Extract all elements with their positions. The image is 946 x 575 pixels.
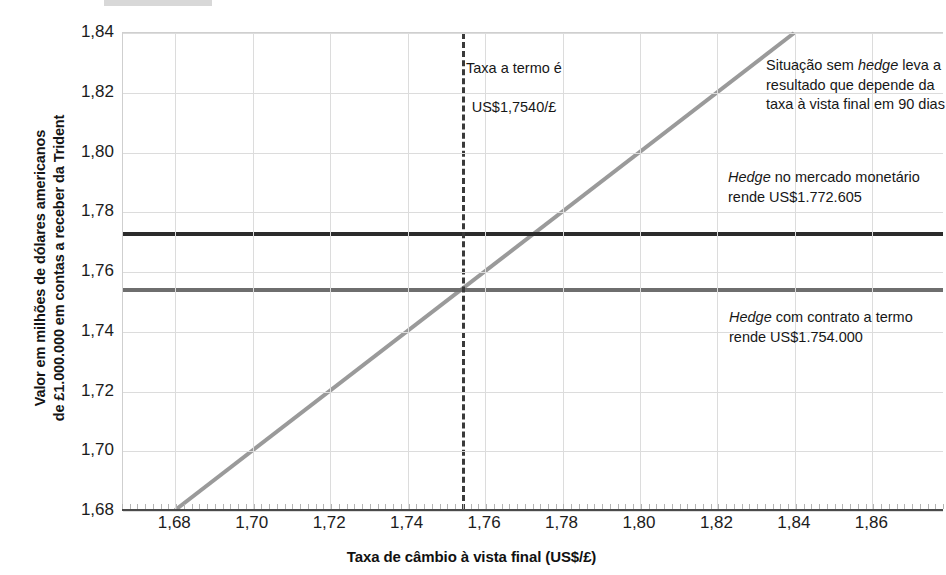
x-axis-minor-tick — [246, 504, 247, 509]
x-axis-minor-tick — [362, 504, 363, 509]
x-axis-minor-tick — [385, 504, 386, 509]
x-axis-minor-tick — [889, 504, 890, 509]
x-axis-minor-tick — [827, 504, 828, 509]
x-axis-minor-tick — [509, 504, 510, 509]
x-axis-minor-tick — [649, 504, 650, 509]
x-axis-minor-tick — [726, 504, 727, 509]
x-axis-minor-tick — [873, 504, 874, 509]
gridline-horizontal — [123, 392, 943, 393]
x-axis-minor-tick — [300, 504, 301, 509]
x-axis-minor-tick — [378, 504, 379, 509]
x-axis-minor-tick — [176, 504, 177, 509]
x-axis-minor-tick — [339, 504, 340, 509]
x-axis-minor-tick — [517, 504, 518, 509]
x-axis-minor-tick — [943, 504, 944, 509]
annotation-forward-rate: Taxa a termo é US$1,7540/£ — [419, 39, 609, 137]
x-axis-minor-tick — [401, 504, 402, 509]
x-axis-minor-tick — [424, 504, 425, 509]
x-axis-tick-label: 1,80 — [622, 513, 655, 533]
x-axis-minor-tick — [409, 504, 410, 509]
x-axis-minor-tick — [347, 504, 348, 509]
x-axis-minor-tick — [455, 504, 456, 509]
x-axis-minor-tick — [292, 504, 293, 509]
annotation-money-market-emphasis: Hedge — [728, 169, 771, 185]
x-axis-minor-tick — [393, 504, 394, 509]
x-axis-minor-tick — [269, 504, 270, 509]
gridline-vertical — [640, 33, 641, 510]
x-axis-minor-tick — [571, 504, 572, 509]
x-axis-tick-label: 1,68 — [158, 513, 191, 533]
annotation-unhedged-prefix: Situação sem — [766, 57, 858, 73]
x-axis-minor-tick — [215, 504, 216, 509]
x-axis-minor-tick — [145, 504, 146, 509]
x-axis-minor-tick — [804, 504, 805, 509]
x-axis-minor-tick — [440, 504, 441, 509]
gridline-horizontal — [123, 33, 943, 34]
annotation-forward-contract-hedge: Hedge com contrato a termo rende US$1.75… — [729, 308, 944, 347]
x-axis-minor-tick — [718, 504, 719, 509]
x-axis-minor-tick — [563, 504, 564, 509]
x-axis-minor-tick — [579, 504, 580, 509]
x-axis-minor-tick — [788, 504, 789, 509]
x-axis-minor-tick — [773, 504, 774, 509]
x-axis-minor-tick — [316, 504, 317, 509]
x-axis-tick-label: 1,78 — [545, 513, 578, 533]
x-axis-tick-labels: 1,681,701,721,741,761,781,801,821,841,86 — [0, 513, 943, 539]
x-axis-minor-tick — [711, 504, 712, 509]
x-axis-minor-tick — [796, 504, 797, 509]
x-axis-minor-tick — [168, 504, 169, 509]
x-axis-minor-tick — [285, 504, 286, 509]
x-axis-minor-tick — [610, 504, 611, 509]
x-axis-minor-tick — [819, 504, 820, 509]
annotation-unhedged-emphasis: hedge — [858, 57, 898, 73]
y-axis-tick-label: 1,74 — [56, 321, 114, 341]
y-axis-tick-label: 1,72 — [56, 381, 114, 401]
x-axis-minor-tick — [556, 504, 557, 509]
x-axis-tick-label: 1,70 — [235, 513, 268, 533]
x-axis-minor-tick — [471, 504, 472, 509]
gridline-vertical — [717, 33, 718, 510]
x-axis-minor-tick — [695, 504, 696, 509]
gridline-vertical — [330, 33, 331, 510]
top-edge-artifact — [104, 0, 212, 6]
forward-hedge-line — [123, 288, 943, 292]
x-axis-minor-tick — [904, 504, 905, 509]
x-axis-minor-tick — [230, 504, 231, 509]
x-axis-minor-tick — [463, 504, 464, 509]
x-axis-minor-tick — [672, 504, 673, 509]
x-axis-minor-tick — [850, 504, 851, 509]
y-axis-title-line-1: Valor em milhões de dólares americanos — [31, 130, 50, 407]
x-axis-minor-tick — [928, 504, 929, 509]
annotation-forward-rate-line1: Taxa a termo é — [419, 59, 609, 79]
x-axis-minor-tick — [432, 504, 433, 509]
x-axis-minor-tick — [277, 504, 278, 509]
x-axis-minor-tick — [811, 504, 812, 509]
y-axis-tick-label: 1,78 — [56, 201, 114, 221]
x-axis-minor-tick — [866, 504, 867, 509]
annotation-forward-contract-emphasis: Hedge — [729, 309, 772, 325]
x-axis-minor-tick — [533, 504, 534, 509]
y-axis-tick-label: 1,84 — [56, 22, 114, 42]
x-axis-tick-label: 1,72 — [313, 513, 346, 533]
x-axis-minor-tick — [625, 504, 626, 509]
x-axis-tick-label: 1,82 — [700, 513, 733, 533]
y-axis-tick-label: 1,80 — [56, 142, 114, 162]
x-axis-minor-tick — [881, 504, 882, 509]
x-axis-minor-tick — [757, 504, 758, 509]
x-axis-minor-tick — [184, 504, 185, 509]
x-axis-minor-tick — [223, 504, 224, 509]
x-axis-minor-tick — [912, 504, 913, 509]
y-axis-tick-labels: 1,681,701,721,741,761,781,801,821,84 — [56, 0, 114, 575]
x-axis-minor-tick — [502, 504, 503, 509]
y-axis-tick-label: 1,82 — [56, 82, 114, 102]
x-axis-minor-tick — [835, 504, 836, 509]
gridline-horizontal — [123, 153, 943, 154]
x-axis-minor-tick — [734, 504, 735, 509]
gridline-horizontal — [123, 511, 943, 512]
x-axis-minor-tick — [749, 504, 750, 509]
x-axis-minor-tick — [192, 504, 193, 509]
x-axis-minor-tick — [742, 504, 743, 509]
x-axis-minor-tick — [254, 504, 255, 509]
x-axis-minor-tick — [664, 504, 665, 509]
